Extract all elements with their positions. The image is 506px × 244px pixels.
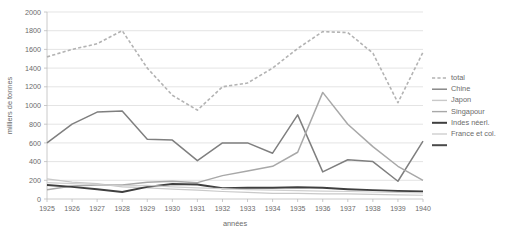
y-axis-tick-label: 1200	[25, 82, 41, 91]
x-axis-tick-label: 1938	[365, 205, 381, 212]
y-axis-tick-label: 1800	[25, 26, 41, 35]
x-axis-tick-label: 1933	[240, 205, 256, 212]
y-axis-tick-label: 600	[29, 139, 41, 148]
x-axis-tick-label: 1927	[89, 205, 105, 212]
x-axis-tick-label: 1931	[190, 205, 206, 212]
x-axis-tick-label: 1939	[390, 205, 406, 212]
y-axis-tick-label: 1000	[25, 101, 41, 110]
series-line-total	[47, 31, 423, 110]
x-axis-tick-label: 1935	[290, 205, 306, 212]
y-axis-title: milliers de tonnes	[5, 76, 14, 134]
y-axis-tick-label: 2000	[25, 8, 41, 17]
x-axis-tick-label: 1928	[114, 205, 130, 212]
series-line-singapour	[47, 92, 423, 189]
y-axis-tick-label: 400	[29, 157, 41, 166]
chart-canvas: 0200400600800100012001400160018002000192…	[0, 0, 506, 244]
x-axis-tick-label: 1937	[340, 205, 356, 212]
y-axis-tick-label: 1400	[25, 64, 41, 73]
legend-label-singapour: Singapour	[451, 107, 485, 116]
x-axis-tick-label: 1934	[265, 205, 281, 212]
x-axis-title: années	[223, 219, 248, 228]
legend-label-chine: Chine	[451, 84, 470, 93]
x-axis-tick-label: 1930	[165, 205, 181, 212]
legend-label-total: total	[451, 73, 465, 82]
legend-label-indes-n-erl: Indes néerl.	[451, 118, 490, 127]
x-axis-tick-label: 1932	[215, 205, 231, 212]
y-axis-tick-label: 1600	[25, 45, 41, 54]
legend-label-france-et-col: France et col.	[451, 129, 496, 138]
x-axis-tick-label: 1940	[415, 205, 431, 212]
y-axis-tick-label: 0	[37, 195, 41, 204]
legend-label-japon: Japon	[451, 95, 471, 104]
x-axis-tick-label: 1926	[64, 205, 80, 212]
y-axis-tick-label: 800	[29, 120, 41, 129]
series-line-chine	[47, 111, 423, 181]
x-axis-tick-label: 1929	[139, 205, 155, 212]
y-axis-tick-label: 200	[29, 176, 41, 185]
line-chart: 0200400600800100012001400160018002000192…	[0, 0, 506, 244]
x-axis-tick-label: 1925	[39, 205, 55, 212]
x-axis-tick-label: 1936	[315, 205, 331, 212]
